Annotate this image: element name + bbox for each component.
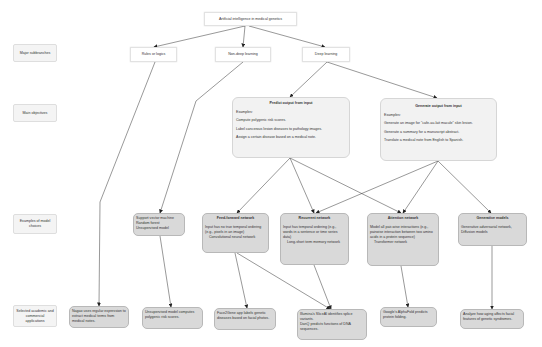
app-unsupervised-prs: Unsupervised model computes polygenic ri…	[142, 307, 203, 329]
row-label-model-choices: Examples of model choices	[13, 214, 57, 234]
model-attention-network: Attention network Model all pair-wise in…	[367, 213, 439, 266]
objective-predict-output: Predict output from input Examples: Comp…	[232, 97, 350, 158]
subbranch-deep-learning: Deep learning	[302, 47, 350, 62]
row-label-subbranches: Major subbranches	[13, 44, 57, 62]
objective-generate-output: Generate output from input Examples: Gen…	[380, 98, 497, 161]
model-classical-ml: Support vector machine Random forest Uns…	[133, 213, 185, 236]
app-nagao: Nagao uses regular expression to extract…	[69, 306, 129, 328]
subbranch-rules-or-logics: Rules or logics	[130, 47, 177, 62]
app-face2gene: Face2Gene app labels genetic diseases ba…	[214, 308, 276, 330]
model-generative-models: Generative models Generative adversarial…	[458, 213, 527, 246]
app-illumina-danq: Illumina's SliceAI identifies splice var…	[297, 309, 367, 340]
root-title: Artificial intelligence in medical genet…	[219, 17, 282, 22]
app-alphafold: Google's AlphaFold predicts protein fold…	[380, 307, 437, 327]
row-label-applications: Selected academic and commercial applica…	[13, 305, 57, 327]
app-aging-facial-features: Analyze how aging affects facial feature…	[460, 309, 524, 329]
connector-edges	[0, 0, 542, 347]
model-feed-forward-network: Feed-forward network Input has no true t…	[202, 213, 269, 253]
subbranch-non-deep-learning: Non-deep learning	[215, 47, 271, 62]
model-recurrent-network: Recurrent network Input has temporal ord…	[280, 213, 349, 265]
root-node: Artificial intelligence in medical genet…	[204, 12, 297, 26]
row-label-objectives: Main objectives	[13, 104, 57, 122]
